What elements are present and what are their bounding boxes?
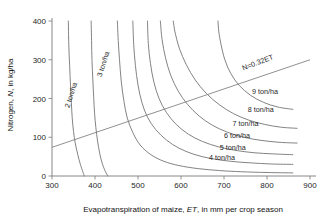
y-axis-ticks: 0100200300400 <box>33 17 52 181</box>
yield-contour-8-ton-ha <box>173 21 297 128</box>
reference-line <box>52 60 310 148</box>
title-text-post: , in mm per crop season <box>197 205 283 214</box>
x-tick-label: 500 <box>131 181 145 190</box>
y-tick-label: 100 <box>33 133 47 142</box>
x-tick-label: 300 <box>45 181 59 190</box>
yield-contour-curves <box>68 21 297 176</box>
reference-line-group: N=0.32ET <box>52 52 310 147</box>
curve-label: 9 ton/ha <box>252 87 278 96</box>
x-axis-title: Evapotranspiration of maize, ET, in mm p… <box>83 205 283 214</box>
yield-contour-4-ton-ha <box>117 21 292 173</box>
x-tick-label: 900 <box>303 181 317 190</box>
y-axis-title: Nitrogen, N, in kg/ha <box>6 58 15 131</box>
curve-label: 5 ton/ha <box>220 143 246 152</box>
title-text-post: , in kg/ha <box>6 58 15 91</box>
yield-contour-7-ton-ha <box>160 21 297 143</box>
y-tick-label: 400 <box>33 17 47 26</box>
x-tick-label: 400 <box>88 181 102 190</box>
x-tick-label: 600 <box>174 181 188 190</box>
x-tick-label: 700 <box>217 181 231 190</box>
curve-label: 7 ton/ha <box>233 119 259 128</box>
title-text-pre: Nitrogen, <box>6 97 15 132</box>
curve-label: 2 ton/ha <box>63 81 80 108</box>
y-tick-label: 200 <box>33 95 47 104</box>
reference-line-label: N=0.32ET <box>241 52 275 72</box>
curve-label: 4 ton/ha <box>209 153 235 162</box>
contour-plot: 300400500600700800900 0100200300400 N=0.… <box>0 0 334 219</box>
curve-label: 3 ton/ha <box>95 50 112 77</box>
y-tick-label: 300 <box>33 56 47 65</box>
curve-label: 6 ton/ha <box>224 131 250 140</box>
title-text-pre: Evapotranspiration of maize, <box>83 205 187 214</box>
chart-figure: 300400500600700800900 0100200300400 N=0.… <box>0 0 334 219</box>
yield-contour-3-ton-ha <box>91 21 108 176</box>
x-tick-label: 800 <box>260 181 274 190</box>
y-tick-label: 0 <box>42 172 47 181</box>
curve-label: 8 ton/ha <box>248 105 274 114</box>
x-axis-ticks: 300400500600700800900 <box>45 176 317 190</box>
